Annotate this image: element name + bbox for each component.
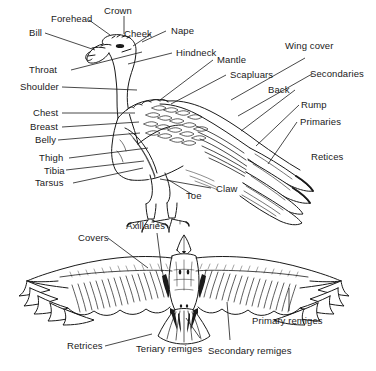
- label-bill: Bill: [29, 28, 42, 38]
- label-belly: Belly: [35, 135, 56, 145]
- label-tibia: Tibia: [44, 166, 65, 176]
- label-hindneck: Hindneck: [176, 48, 216, 58]
- label-axillaries: Axillaries: [126, 221, 165, 231]
- label-toe: Toe: [186, 191, 202, 201]
- perched-vulture-figure: [86, 35, 313, 232]
- label-retices: Retices: [311, 152, 343, 162]
- label-retrices: Retrices: [67, 341, 103, 351]
- label-cheek: Cheek: [124, 29, 152, 39]
- top-figure-leader-lines: [45, 16, 312, 195]
- label-covers: Covers: [78, 233, 109, 243]
- label-scapluars: Scapluars: [230, 70, 273, 80]
- label-shoulder: Shoulder: [20, 82, 59, 92]
- anatomy-diagram-page: Forehead Crown Bill Cheek Nape Hindneck …: [0, 0, 376, 371]
- label-back: Back: [268, 85, 290, 95]
- label-secondary-remiges: Secondary remiges: [208, 346, 292, 356]
- flying-vulture-figure: [19, 235, 349, 344]
- label-wing-cover: Wing cover: [285, 41, 334, 51]
- label-nape: Nape: [171, 26, 194, 36]
- label-tarsus: Tarsus: [35, 178, 64, 188]
- label-breast: Breast: [30, 122, 58, 132]
- label-thigh: Thigh: [39, 153, 63, 163]
- label-forehead: Forehead: [51, 14, 92, 24]
- label-crown: Crown: [104, 6, 132, 16]
- label-chest: Chest: [33, 108, 58, 118]
- label-primaries: Primaries: [300, 117, 341, 127]
- label-mantle: Mantle: [217, 55, 246, 65]
- label-secondaries: Secondaries: [310, 69, 364, 79]
- label-throat: Throat: [29, 65, 57, 75]
- label-teriary-remiges: Teriary remiges: [136, 344, 202, 354]
- label-primary-remiges: Primary remiges: [252, 316, 323, 326]
- label-rump: Rump: [301, 100, 327, 110]
- bottom-figure-leader-lines: [105, 233, 289, 346]
- label-claw: Claw: [216, 184, 238, 194]
